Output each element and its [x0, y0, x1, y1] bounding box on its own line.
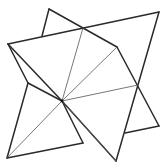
edge-HI — [125, 126, 159, 133]
edge-DJ — [116, 12, 159, 161]
edge-MO — [28, 83, 62, 101]
crease-OJ — [62, 101, 116, 161]
edge-EM — [8, 44, 28, 83]
center-vertex — [61, 100, 64, 103]
crease-OC — [62, 28, 83, 101]
edge-BA — [42, 9, 49, 36]
crease-OF — [62, 47, 117, 101]
edge-LK — [7, 143, 83, 158]
crease-OG — [62, 85, 138, 101]
edge-EO — [8, 44, 62, 101]
edge-KO — [62, 101, 83, 143]
star-polyhedron-diagram — [0, 0, 162, 163]
